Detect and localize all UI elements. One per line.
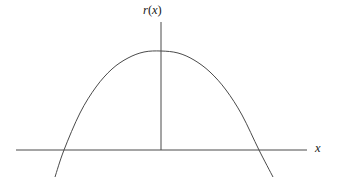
parabola-curve xyxy=(55,51,273,177)
function-label-r-of-x: r(x) xyxy=(143,4,162,17)
x-axis-label: x xyxy=(315,142,321,155)
x-axis-variable: x xyxy=(315,141,321,155)
parabola-figure: r(x) x xyxy=(0,0,337,178)
close-paren: ) xyxy=(158,3,162,17)
figure-canvas xyxy=(0,0,337,178)
